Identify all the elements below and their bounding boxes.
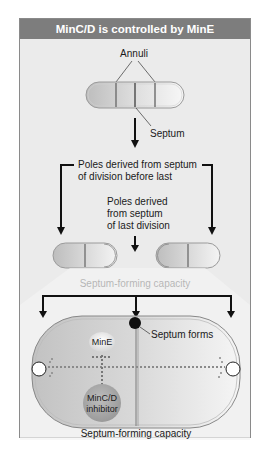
bracket-arrow-right: [202, 165, 216, 235]
mincd-label-line1: MinC/D: [87, 393, 118, 403]
capacity-label-bottom: Septum-forming capacity: [81, 428, 192, 439]
poles-last-line1: Poles derived: [107, 196, 168, 207]
bracket-arrow-left: [57, 165, 74, 235]
septum-callout: Septum: [136, 108, 184, 139]
mine-protein: MinE: [89, 332, 115, 352]
pole-right: [226, 362, 240, 376]
mine-label: MinE: [92, 337, 113, 347]
annuli-callout: Annuli: [116, 48, 155, 82]
septum-label: Septum: [150, 128, 184, 139]
daughter-cell-right: [156, 243, 220, 268]
down-arrow-1: [131, 118, 139, 148]
parent-cell: [86, 82, 184, 108]
daughter-cell-left: [53, 243, 117, 268]
mincd-inhibitor: MinC/D inhibitor: [83, 384, 121, 422]
annuli-label: Annuli: [120, 48, 148, 59]
septum-forms-label: Septum forms: [151, 329, 213, 340]
diagram-canvas: Annuli Septum Poles derived from septum …: [0, 0, 269, 455]
poles-before-last-line2: of division before last: [78, 171, 172, 182]
poles-before-last-line1: Poles derived from septum: [78, 159, 197, 170]
poles-last-line2: from septum: [107, 208, 163, 219]
mincd-label-line2: inhibitor: [86, 404, 118, 414]
pole-left: [32, 362, 46, 376]
poles-last-line3: of last division: [107, 220, 170, 231]
down-arrow-2: [131, 236, 139, 252]
